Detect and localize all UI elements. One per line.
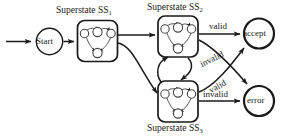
superstate-ss3-box[interactable] [158, 81, 198, 122]
superstate-ss3-title-text: Superstate SS [147, 123, 200, 133]
superstate-ss1-subscript: 1 [109, 9, 112, 16]
superstate-ss2-box[interactable] [158, 16, 198, 57]
start-node-label: Start [36, 37, 53, 46]
accept-node-label: accept [243, 29, 266, 38]
edge-label-ss2-accept-valid: valid [209, 22, 227, 31]
edge-ss2-to-ss3 [181, 58, 192, 80]
superstate-ss1-title: Superstate SS1 [56, 6, 112, 16]
edge-label-ss3-error-invalid: invalid [203, 90, 228, 99]
superstate-ss1-title-text: Superstate SS [56, 5, 109, 15]
diagram-canvas: Superstate SS1 Superstate SS2 Superstate… [0, 0, 288, 140]
error-node-label: error [247, 96, 265, 105]
superstate-ss1-box[interactable] [78, 21, 118, 62]
superstate-ss3-title: Superstate SS3 [147, 124, 203, 134]
diagram-vector-layer [0, 0, 288, 140]
superstate-ss2-subscript: 2 [200, 6, 203, 13]
superstate-ss2-title-text: Superstate SS [147, 2, 200, 12]
edge-ss3-to-ss2 [158, 57, 168, 84]
superstate-ss2-title: Superstate SS2 [147, 3, 203, 13]
superstate-ss3-subscript: 3 [200, 127, 203, 134]
edge-ss1-to-ss3 [118, 43, 157, 93]
